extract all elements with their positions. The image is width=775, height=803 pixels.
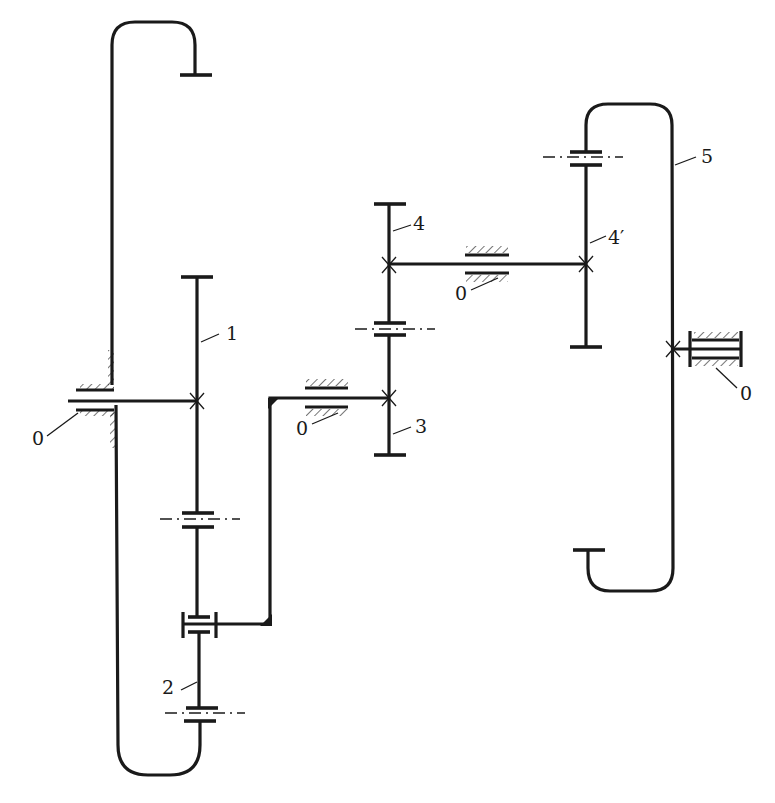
label-gear-1: 1: [226, 322, 238, 344]
label-frame-mid: 0: [296, 417, 308, 439]
label-frame-right: 0: [740, 382, 752, 404]
label-gear-5: 5: [701, 145, 713, 167]
label-frame-left: 0: [32, 427, 44, 449]
gear-2: 2: [162, 527, 270, 721]
gear-train-diagram: 0 1 2 0: [0, 0, 775, 803]
label-gear-3: 3: [415, 415, 427, 437]
label-gear-4-prime: 4′: [608, 226, 624, 248]
label-gear-4: 4: [413, 212, 425, 234]
right-frame-bearing: 0: [673, 331, 752, 404]
gear-4-prime: 4′: [543, 152, 624, 347]
gear-3-4: 4 3: [355, 204, 435, 455]
left-frame-bearing: 0: [32, 350, 198, 449]
label-frame-upper: 0: [455, 282, 467, 304]
label-gear-2: 2: [162, 676, 174, 698]
middle-frame-bearing: 0: [296, 379, 348, 439]
carrier-arm: [260, 398, 390, 626]
countershaft: 0: [389, 246, 585, 304]
